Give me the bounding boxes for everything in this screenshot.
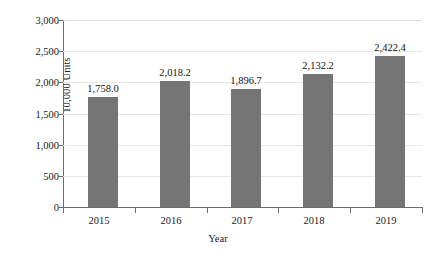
x-axis-line: [63, 207, 423, 208]
x-tick-label: 2016: [139, 214, 203, 228]
bar-value-label: 2,422.4: [358, 41, 422, 55]
bar-value-label: 1,896.7: [214, 74, 278, 88]
bar: [160, 81, 190, 207]
x-tick-label: 2015: [67, 214, 131, 228]
y-tick-label: 500: [21, 170, 59, 183]
bar-chart: 10,000 Units 3,000 2,500 2,000 1,500 1,0…: [0, 0, 436, 262]
y-tick-label: 0: [21, 201, 59, 214]
gridline: [63, 20, 422, 21]
x-tickmark: [135, 208, 136, 213]
y-tick-label: 1,500: [21, 108, 59, 121]
bar: [88, 97, 118, 207]
x-tickmark: [278, 208, 279, 213]
bar-value-label: 2,132.2: [286, 59, 350, 73]
x-tickmark: [422, 208, 423, 213]
bar: [231, 89, 261, 207]
bar-value-label: 1,758.0: [71, 82, 135, 96]
y-tick-label: 2,500: [21, 45, 59, 58]
y-tick-label: 2,000: [21, 76, 59, 89]
x-tickmark: [350, 208, 351, 213]
x-tickmark: [63, 208, 64, 213]
x-tickmark: [207, 208, 208, 213]
x-tick-label: 2018: [282, 214, 346, 228]
y-tick-label: 1,000: [21, 139, 59, 152]
x-tick-label: 2019: [354, 214, 418, 228]
bar: [303, 74, 333, 207]
y-tick-label: 3,000: [21, 14, 59, 27]
bar-value-label: 2,018.2: [143, 66, 207, 80]
y-axis-tick-labels: 3,000 2,500 2,000 1,500 1,000 500 0: [20, 0, 59, 262]
x-tick-label: 2017: [210, 214, 274, 228]
x-axis-title: Year: [0, 232, 436, 246]
bar: [375, 56, 405, 207]
